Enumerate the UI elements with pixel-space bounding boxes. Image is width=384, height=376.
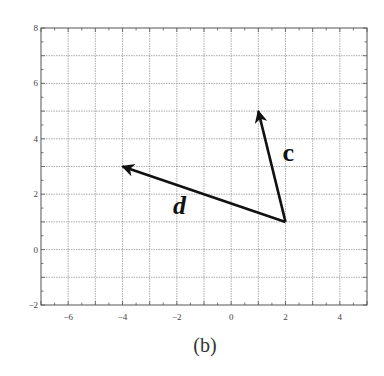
y-tick-label: −2	[28, 300, 38, 310]
y-tick-label: 2	[34, 189, 39, 199]
vector-d-label: d	[173, 191, 187, 220]
y-tick-label: 8	[34, 23, 39, 33]
y-tick-label: 0	[34, 245, 39, 255]
x-tick-label: −6	[63, 312, 73, 322]
y-tick-label: 4	[34, 134, 39, 144]
grid-lines	[41, 28, 367, 305]
vectors: cd	[123, 111, 294, 222]
x-axis-tick-labels: −6−4−2024	[63, 312, 342, 322]
x-tick-label: 4	[338, 312, 343, 322]
vector-chart: −6−4−2024 −202468 cd (b)	[0, 0, 384, 376]
y-tick-label: 6	[34, 78, 39, 88]
x-tick-label: −4	[118, 312, 128, 322]
figure-caption: (b)	[193, 334, 216, 357]
vector-c-label: c	[282, 138, 294, 167]
x-tick-label: 2	[283, 312, 288, 322]
x-tick-label: −2	[172, 312, 182, 322]
x-tick-label: 0	[229, 312, 234, 322]
y-axis-tick-labels: −202468	[28, 23, 38, 310]
